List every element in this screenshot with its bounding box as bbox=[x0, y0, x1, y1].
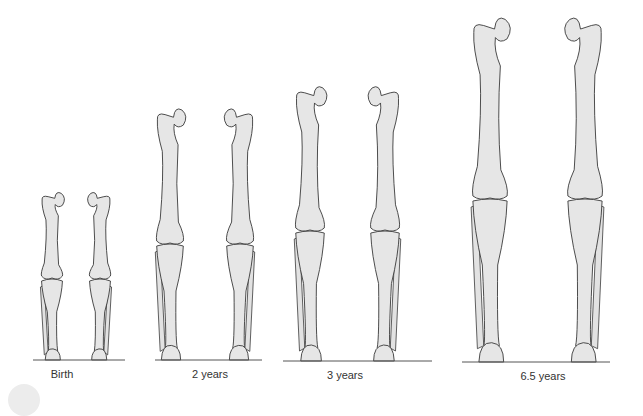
femur bbox=[473, 18, 511, 199]
leg bbox=[294, 87, 327, 361]
age-label: 6.5 years bbox=[520, 370, 565, 382]
age-group-0 bbox=[33, 193, 125, 360]
femur bbox=[156, 109, 185, 244]
talus bbox=[45, 349, 60, 360]
age-label: Birth bbox=[51, 368, 74, 380]
femur bbox=[368, 87, 400, 231]
leg bbox=[471, 18, 510, 362]
age-label: 3 years bbox=[327, 369, 363, 381]
talus bbox=[92, 349, 107, 360]
leg bbox=[565, 18, 604, 362]
leg bbox=[40, 193, 64, 360]
age-group-2 bbox=[283, 87, 432, 361]
leg bbox=[224, 109, 254, 360]
femur bbox=[41, 193, 64, 280]
femur bbox=[224, 109, 253, 244]
age-group-1 bbox=[155, 109, 262, 360]
corner-circle-decoration bbox=[8, 384, 40, 416]
leg bbox=[155, 109, 185, 360]
leg bbox=[368, 87, 401, 361]
femur bbox=[88, 193, 111, 280]
femur bbox=[295, 87, 327, 231]
femur bbox=[565, 18, 603, 199]
age-group-3 bbox=[462, 18, 610, 362]
age-label: 2 years bbox=[192, 368, 228, 380]
leg bbox=[88, 193, 112, 360]
